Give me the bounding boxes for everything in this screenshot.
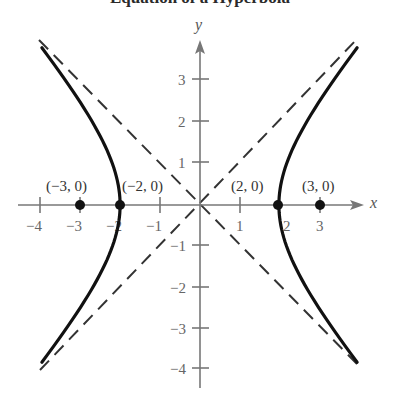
- x-axis: [18, 197, 364, 213]
- hyperbola-diagram: x y −4 −3 −2 −1 1 2 3 3 2 1 −1 −2 −3 −4: [0, 0, 400, 398]
- y-axis: [192, 40, 209, 388]
- point-label: (−3, 0): [46, 178, 87, 195]
- x-tick-label: −1: [146, 218, 162, 234]
- asymptote-positive-slope: [40, 38, 358, 370]
- x-tick-label: 2: [283, 218, 291, 234]
- x-tick-label: −3: [66, 218, 82, 234]
- point-label: (3, 0): [302, 178, 335, 195]
- x-tick-label: 1: [236, 218, 244, 234]
- x-tick-label: 3: [316, 218, 324, 234]
- y-tick-label: −3: [170, 321, 186, 337]
- x-axis-label: x: [369, 194, 377, 211]
- y-tick-label: 2: [178, 114, 186, 130]
- y-tick-label: 3: [178, 72, 186, 88]
- point-label: (2, 0): [231, 178, 264, 195]
- y-tick-label: −4: [170, 361, 186, 377]
- focus-point-right: [315, 200, 325, 210]
- y-tick-label: −2: [170, 280, 186, 296]
- point-label: (−2, 0): [122, 178, 163, 195]
- vertex-point-right: [273, 200, 283, 210]
- y-tick-label: 1: [178, 155, 186, 171]
- point-labels: (−3, 0) (−2, 0) (2, 0) (3, 0): [46, 178, 335, 195]
- focus-point-left: [75, 200, 85, 210]
- y-tick-label: −1: [170, 238, 186, 254]
- x-tick-label: −4: [26, 218, 42, 234]
- vertex-point-left: [115, 200, 125, 210]
- y-axis-label: y: [193, 16, 203, 34]
